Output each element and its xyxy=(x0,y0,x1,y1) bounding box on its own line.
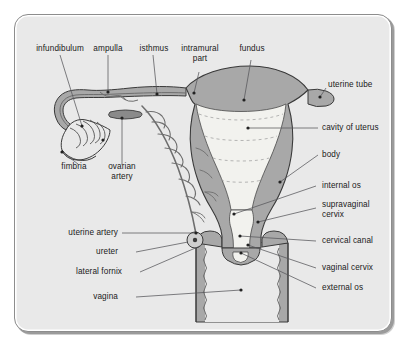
label-ovarian-artery-line1: ovarian xyxy=(96,162,148,172)
label-uterine-artery: uterine artery xyxy=(32,228,118,238)
label-ovarian-artery-line2: artery xyxy=(96,172,148,182)
label-supravaginal-cervix-line1: supravaginal xyxy=(322,200,398,210)
label-intramural-part-line2: part xyxy=(172,54,228,64)
label-ureter: ureter xyxy=(62,247,118,257)
label-vagina: vagina xyxy=(62,292,118,302)
label-internal-os: internal os xyxy=(322,181,392,191)
label-lateral-fornix: lateral fornix xyxy=(42,267,122,277)
ovarian-artery-shape xyxy=(109,110,143,119)
label-intramural-part-line1: intramural xyxy=(172,44,228,54)
label-fundus: fundus xyxy=(226,44,278,54)
label-cavity-of-uterus: cavity of uterus xyxy=(322,123,402,133)
label-vaginal-cervix: vaginal cervix xyxy=(322,263,400,273)
label-fimbria: fimbria xyxy=(46,162,102,172)
label-supravaginal-cervix-line2: cervix xyxy=(322,210,398,220)
ureter-shape xyxy=(187,232,203,248)
label-body: body xyxy=(322,150,382,160)
figure-container: infundibulum ampulla isthmus intramural … xyxy=(0,0,406,346)
label-uterine-tube: uterine tube xyxy=(328,80,398,90)
label-external-os: external os xyxy=(322,283,394,293)
label-cervical-canal: cervical canal xyxy=(322,236,400,246)
